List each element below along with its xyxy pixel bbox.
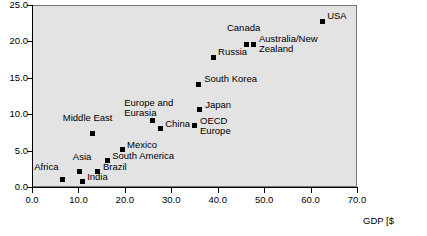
x-tick-mark xyxy=(311,188,312,193)
data-point-label: South America xyxy=(112,151,174,162)
x-axis-title: GDP [$ thousand] per capita xyxy=(363,192,405,236)
x-tick-label: 60.0 xyxy=(291,194,331,205)
data-point-label: Eurasia xyxy=(124,108,156,119)
x-tick-mark xyxy=(357,188,358,193)
data-point-label: Europe xyxy=(200,126,231,137)
data-point-label: USA xyxy=(327,11,347,22)
y-tick-label: 25.0 xyxy=(0,0,28,10)
y-axis-line xyxy=(32,5,33,188)
x-tick-label: 20.0 xyxy=(105,194,145,205)
data-point-marker xyxy=(320,19,325,24)
data-point-marker xyxy=(192,123,197,128)
x-tick-label: 30.0 xyxy=(151,194,191,205)
data-point-label: Zealand xyxy=(259,44,293,55)
data-point-marker xyxy=(196,82,201,87)
y-tick-label: 20.0 xyxy=(0,36,28,46)
data-point-label: South Korea xyxy=(204,74,257,85)
y-tick-label: 10.0 xyxy=(0,109,28,119)
data-point-label: Russia xyxy=(218,47,247,58)
data-point-marker xyxy=(60,177,65,182)
data-point-marker xyxy=(80,179,85,184)
data-point-marker xyxy=(158,126,163,131)
x-axis-title-line1: GDP [$ xyxy=(363,215,405,227)
x-tick-label: 10.0 xyxy=(58,194,98,205)
data-point-label: India xyxy=(87,172,108,183)
data-point-label: Canada xyxy=(227,23,260,34)
x-tick-label: 40.0 xyxy=(198,194,238,205)
data-point-marker xyxy=(197,107,202,112)
x-tick-label: 0.0 xyxy=(12,194,52,205)
data-point-marker xyxy=(90,131,95,136)
x-tick-label: 50.0 xyxy=(244,194,284,205)
data-point-label: China xyxy=(165,119,190,130)
x-tick-mark xyxy=(171,188,172,193)
y-tick-label: 0.0 xyxy=(0,182,28,192)
data-point-label: Mexico xyxy=(127,140,157,151)
data-point-label: Asia xyxy=(73,152,91,163)
data-point-marker xyxy=(251,42,256,47)
data-point-marker xyxy=(211,55,216,60)
x-tick-mark xyxy=(78,188,79,193)
data-point-label: Japan xyxy=(205,100,231,111)
y-tick-label: 5.0 xyxy=(0,146,28,156)
x-tick-mark xyxy=(125,188,126,193)
data-point-marker xyxy=(77,169,82,174)
data-point-label: Middle East xyxy=(63,113,113,124)
x-tick-mark xyxy=(218,188,219,193)
data-point-label: Africa xyxy=(34,162,58,173)
x-tick-mark xyxy=(32,188,33,193)
scatter-chart: 0.05.010.015.020.025.0 0.010.020.030.040… xyxy=(0,0,427,236)
y-tick-label: 15.0 xyxy=(0,73,28,83)
x-tick-mark xyxy=(264,188,265,193)
x-axis-line xyxy=(32,187,358,188)
